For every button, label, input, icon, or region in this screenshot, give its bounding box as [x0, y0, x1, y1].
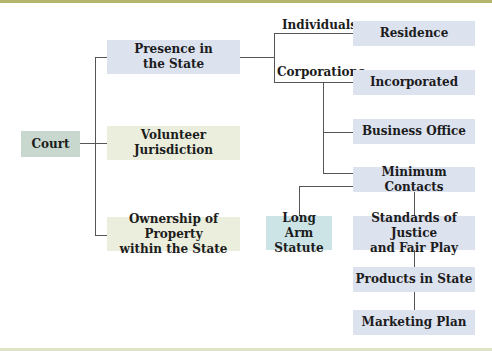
connector-products-to-marketing: [414, 292, 415, 310]
connector-corporations: [274, 82, 353, 83]
node-incorporated: Incorporated: [353, 70, 475, 95]
connector-court-to-trunk: [80, 143, 107, 144]
node-court: Court: [21, 131, 80, 157]
connector-trunk-to-ownership: [95, 235, 107, 236]
node-presence-in-state: Presence in the State: [107, 40, 240, 74]
connector-presence-out: [240, 57, 274, 58]
node-volunteer-jurisdiction: Volunteer Jurisdiction: [107, 126, 240, 160]
connector-corporations-trunk: [323, 82, 324, 174]
top-border-bar: [0, 0, 492, 3]
node-residence: Residence: [353, 21, 475, 46]
node-marketing-plan: Marketing Plan: [353, 310, 475, 335]
bottom-border-line: [0, 348, 492, 351]
label-corporations: Corporations: [277, 65, 365, 79]
connector-trunk: [95, 57, 96, 236]
connector-minimum-contacts: [323, 173, 353, 174]
node-products-in-state: Products in State: [353, 267, 475, 292]
node-minimum-contacts: Minimum Contacts: [353, 167, 475, 192]
connector-trunk-to-presence: [95, 57, 107, 58]
connector-business-office: [323, 132, 353, 133]
label-individuals: Individuals: [282, 18, 357, 32]
node-long-arm-statute: Long Arm Statute: [266, 216, 332, 250]
connector-standards-to-products: [414, 250, 415, 267]
node-business-office: Business Office: [353, 119, 475, 144]
connector-presence-split: [274, 33, 275, 83]
connector-individuals: [274, 33, 353, 34]
node-standards-of-justice: Standards of Justice and Fair Play: [353, 216, 475, 250]
node-ownership-of-property: Ownership of Property within the State: [107, 217, 240, 251]
jurisdiction-diagram: Court Presence in the State Volunteer Ju…: [0, 0, 492, 357]
connector-long-arm-top: [299, 186, 353, 187]
